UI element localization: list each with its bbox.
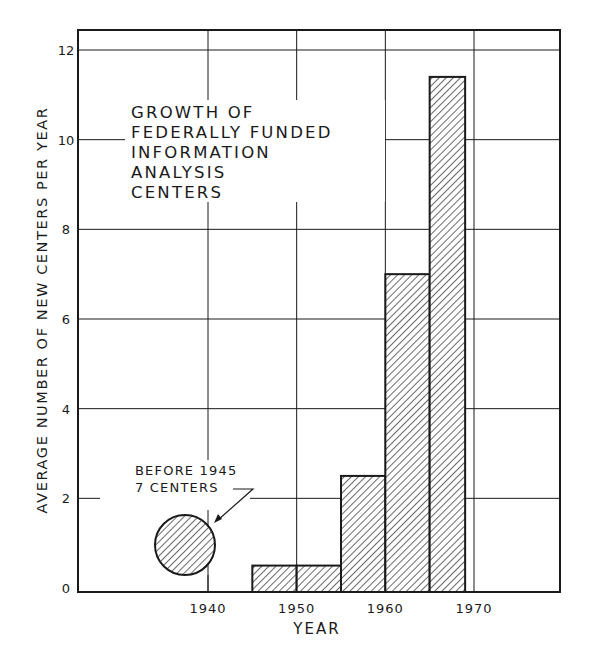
bar-1950-1955 [297,566,341,592]
bar-chart: BEFORE 19457 CENTERS 024681012 194019501… [0,0,590,652]
y-tick-labels: 024681012 [58,43,75,596]
y-tick-8: 8 [62,222,70,237]
y-tick-10: 10 [58,133,75,148]
before-1945-circle [155,515,215,575]
title-line-2: FEDERALLY FUNDED [131,123,333,142]
annotation-text: 7 CENTERS [135,480,219,495]
x-tick-1940: 1940 [189,601,226,616]
bar-1955-1960 [341,476,385,592]
x-axis-label: YEAR [292,620,340,638]
title-line-4: ANALYSIS [131,163,226,182]
y-axis-label: AVERAGE NUMBER OF NEW CENTERS PER YEAR [34,107,50,514]
bar-1965-1969 [430,77,465,592]
bar-1960-1965 [385,274,429,592]
y-tick-2: 2 [62,491,70,506]
y-tick-6: 6 [62,312,70,327]
title-line-1: GROWTH OF [131,103,255,122]
y-tick-4: 4 [62,402,70,417]
title-line-5: CENTERS [131,183,223,202]
x-tick-1960: 1960 [367,601,404,616]
title-line-3: INFORMATION [131,143,271,162]
y-tick-0: 0 [62,581,70,596]
y-tick-12: 12 [58,43,75,58]
x-tick-1970: 1970 [455,601,492,616]
bar-1945-1950 [252,566,296,592]
annotation-text: BEFORE 1945 [135,463,238,478]
x-tick-1950: 1950 [278,601,315,616]
